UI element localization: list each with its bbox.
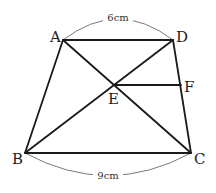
trapezoid-diagram: 6cm 9cm A D E F B C [0, 0, 216, 193]
segment-bd [25, 40, 173, 153]
segment-dc [173, 40, 191, 153]
vertex-label-c: C [194, 150, 205, 168]
vertex-label-e: E [108, 90, 119, 108]
label-ad-length: 6cm [107, 12, 129, 23]
vertex-label-a: A [49, 28, 61, 46]
vertex-label-f: F [184, 78, 194, 96]
label-bc-length: 9cm [97, 170, 119, 181]
vertex-label-d: D [176, 28, 188, 46]
segment-ab [25, 40, 63, 153]
segment-ac [63, 40, 191, 153]
vertex-label-b: B [12, 150, 23, 168]
